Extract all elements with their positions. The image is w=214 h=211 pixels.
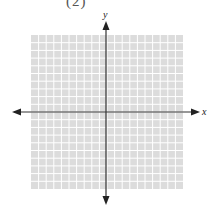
y-axis-down-arrow-icon [103,196,110,205]
x-axis-right-arrow-icon [191,109,200,116]
coordinate-plane [0,0,214,211]
y-axis-label: y [103,10,107,20]
y-axis-up-arrow-icon [103,21,110,30]
x-axis-left-arrow-icon [12,109,21,116]
x-axis-label: x [202,107,206,117]
